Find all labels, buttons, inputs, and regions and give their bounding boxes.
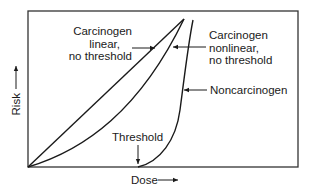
curve-noncarcinogen bbox=[138, 20, 193, 167]
label-line: no threshold bbox=[62, 50, 132, 63]
label-line: linear, bbox=[62, 38, 120, 51]
x-axis-label: Dose bbox=[131, 174, 158, 187]
label-line: nonlinear, bbox=[209, 42, 272, 55]
label-line: Noncarcinogen bbox=[210, 84, 287, 97]
label-line: no threshold bbox=[209, 54, 272, 67]
label-threshold: Threshold bbox=[112, 131, 163, 144]
y-axis-label: Risk bbox=[10, 91, 23, 117]
label-line: Carcinogen bbox=[209, 29, 272, 42]
label-carcinogen-linear: Carcinogen linear, no threshold bbox=[62, 25, 132, 63]
label-carcinogen-nonlinear: Carcinogen nonlinear, no threshold bbox=[209, 29, 272, 67]
label-line: Carcinogen bbox=[62, 25, 132, 38]
label-noncarcinogen: Noncarcinogen bbox=[210, 84, 287, 97]
